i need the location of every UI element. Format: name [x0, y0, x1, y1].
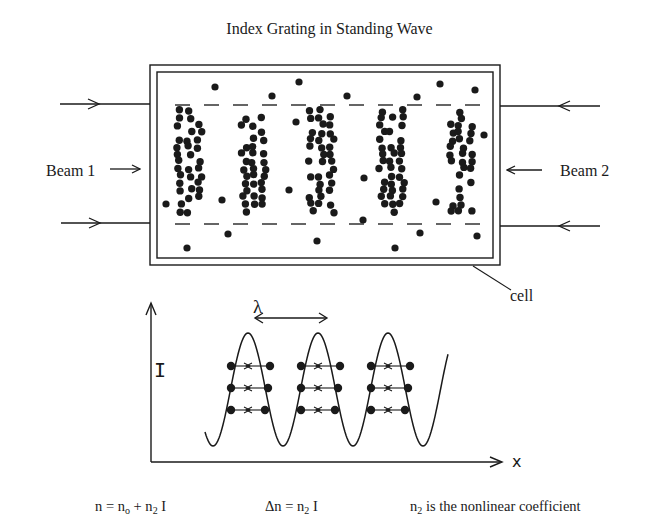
cell-pointer-line [473, 266, 511, 290]
x-axis-label: x [512, 452, 521, 471]
beam-1-label: Beam 1 [46, 162, 95, 180]
equation-index-change: Δn = n2 I [265, 498, 318, 516]
diagram-title: Index Grating in Standing Wave [0, 20, 659, 38]
wavelength-arrow [255, 313, 327, 323]
plot-axes [146, 303, 502, 467]
beam-2-label: Beam 2 [560, 162, 609, 180]
equation-nonlinear-coefficient: n2 is the nonlinear coefficient [410, 498, 581, 516]
diagram-canvas [0, 0, 659, 530]
cell-frame [150, 65, 500, 265]
equation-refractive-index: n = no + n2 I [95, 498, 166, 516]
wavelength-label: λ [253, 296, 262, 318]
atom-force-arrows [227, 362, 414, 414]
cell-label: cell [510, 287, 533, 305]
y-axis-label: I [154, 358, 166, 382]
